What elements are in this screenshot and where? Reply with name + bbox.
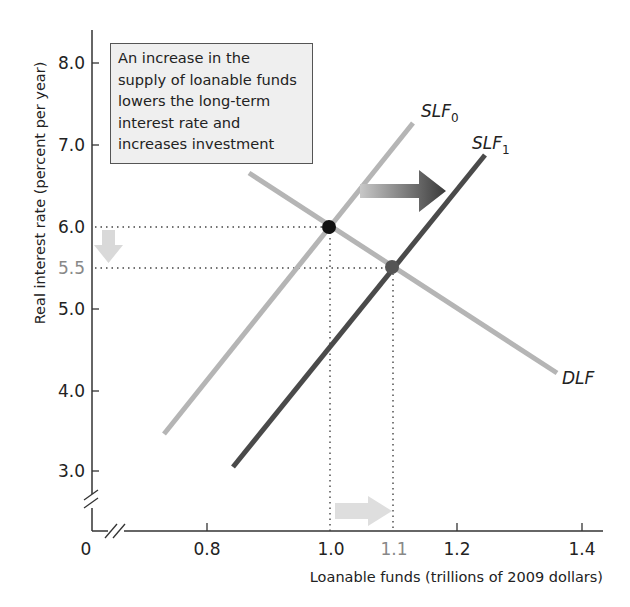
origin-label: 0 xyxy=(81,539,92,559)
y-tick-3: 3.0 xyxy=(58,461,85,481)
x-tick-labels: 0 0.8 1.0 1.1 1.2 1.4 xyxy=(81,539,596,559)
note-line: increases investment xyxy=(118,133,305,155)
slf1-curve xyxy=(233,155,485,467)
x-tick-1-2: 1.2 xyxy=(443,539,470,559)
initial-equilibrium-point xyxy=(322,220,336,234)
slf0-label: SLF0 xyxy=(421,101,459,125)
x-axis-title: Loanable funds (trillions of 2009 dollar… xyxy=(310,569,603,585)
x-axis-break-icon xyxy=(105,524,125,538)
note-line: supply of loanable funds xyxy=(118,69,305,91)
slf1-label: SLF1 xyxy=(472,133,510,157)
y-tick-8: 8.0 xyxy=(58,53,85,73)
dlf-label: DLF xyxy=(562,368,595,388)
y-tick-4: 4.0 xyxy=(58,381,85,401)
note-line: An increase in the xyxy=(118,47,305,69)
x-tick-1-1: 1.1 xyxy=(380,539,407,559)
x-tick-1-0: 1.0 xyxy=(317,539,344,559)
y-tick-6: 6.0 xyxy=(58,217,85,237)
y-tick-5-5: 5.5 xyxy=(58,258,85,278)
rate-down-arrow-icon xyxy=(94,230,123,263)
quantity-right-arrow-icon xyxy=(335,496,392,526)
guide-lines xyxy=(95,227,393,531)
y-tick-7: 7.0 xyxy=(58,135,85,155)
y-tick-labels: 8.0 7.0 6.0 5.5 5.0 4.0 3.0 xyxy=(58,53,85,481)
note-line: lowers the long-term xyxy=(118,90,305,112)
new-equilibrium-point xyxy=(385,260,399,274)
x-tick-0-8: 0.8 xyxy=(193,539,220,559)
loanable-funds-chart: 8.0 7.0 6.0 5.5 5.0 4.0 3.0 0 0.8 1.0 1.… xyxy=(0,0,630,607)
annotation-note-box: An increase in the supply of loanable fu… xyxy=(110,43,313,164)
y-axis-title: Real interest rate (percent per year) xyxy=(32,62,48,325)
y-tick-5: 5.0 xyxy=(58,299,85,319)
note-line: interest rate and xyxy=(118,112,305,134)
slf0-curve xyxy=(164,123,413,434)
x-tick-1-4: 1.4 xyxy=(568,539,595,559)
